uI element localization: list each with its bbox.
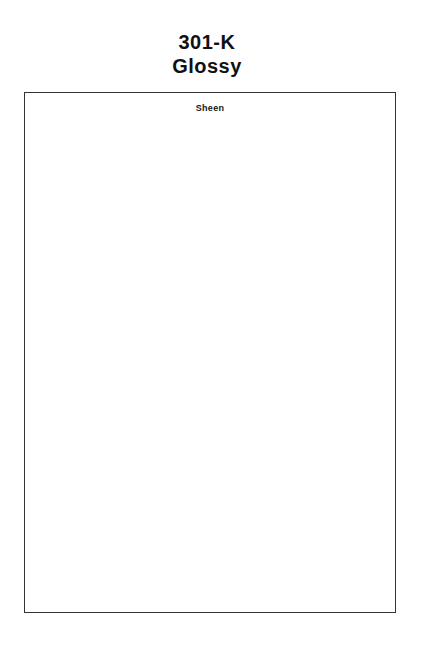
sample-label: Sheen (25, 103, 395, 113)
product-code-title: 301-K (0, 31, 419, 54)
sample-panel: Sheen (24, 92, 396, 613)
finish-type-title: Glossy (0, 55, 419, 78)
